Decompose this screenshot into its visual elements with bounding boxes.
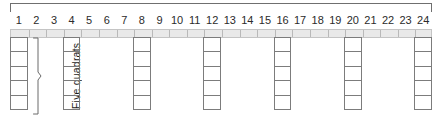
scale-tick-label: 11: [186, 13, 204, 27]
ruler-tick: [152, 30, 153, 37]
scale-tick-label: 14: [239, 13, 257, 27]
ruler-tick: [222, 30, 223, 37]
ruler-tick: [134, 30, 135, 37]
ruler-tick: [380, 30, 381, 37]
quadrat-cell: [10, 37, 28, 52]
quadrat-cell: [63, 37, 81, 52]
quadrat-cell: [274, 37, 292, 52]
scale-tick-label: 15: [256, 13, 274, 27]
scale-tick-label: 3: [45, 13, 63, 27]
quadrat-column: [203, 37, 221, 110]
ruler-tick: [169, 30, 170, 37]
quadrat-cell: [274, 51, 292, 66]
quadrat-cell: [10, 95, 28, 110]
quadrat-cell: [414, 37, 432, 52]
quadrat-cell: [344, 66, 362, 81]
scale-tick-label: 19: [327, 13, 345, 27]
scale-tick-label: 4: [63, 13, 81, 27]
ruler-tick: [240, 30, 241, 37]
ruler-tick: [257, 30, 258, 37]
quadrat-cell: [133, 80, 151, 95]
quadrat-cell: [274, 66, 292, 81]
ruler-tick: [292, 30, 293, 37]
quadrat-cell: [203, 66, 221, 81]
ruler-tick: [398, 30, 399, 37]
quadrat-cell: [414, 66, 432, 81]
ruler-tick: [117, 30, 118, 37]
scale-tick-label: 6: [98, 13, 116, 27]
scale-tick-label: 13: [221, 13, 239, 27]
quadrat-cell: [414, 51, 432, 66]
scale-tick-label: 9: [151, 13, 169, 27]
scale-tick-label: 23: [397, 13, 415, 27]
ruler-tick: [275, 30, 276, 37]
scale-tick-label: 7: [116, 13, 134, 27]
quadrat-column: [344, 37, 362, 110]
transect-quadrat-diagram: 123456789101112131415161718192021222324 …: [0, 0, 442, 128]
ruler-tick: [310, 30, 311, 37]
scale-tick-label: 2: [28, 13, 46, 27]
quadrat-cell: [414, 95, 432, 110]
scale-tick-label: 8: [133, 13, 151, 27]
quadrat-cell: [203, 80, 221, 95]
scale-tick-label: 24: [414, 13, 432, 27]
scale-tick-label: 5: [80, 13, 98, 27]
scale-tick-label: 10: [168, 13, 186, 27]
scale-tick-label: 17: [291, 13, 309, 27]
quadrat-cell: [133, 51, 151, 66]
ruler-tick: [363, 30, 364, 37]
ruler-tick: [204, 30, 205, 37]
quadrat-cell: [63, 95, 81, 110]
quadrat-cell: [133, 66, 151, 81]
ruler-tick: [345, 30, 346, 37]
scale-tick-label: 20: [344, 13, 362, 27]
scale-tick-label: 22: [379, 13, 397, 27]
quadrat-cell: [133, 95, 151, 110]
scale-tick-label: 1: [10, 13, 28, 27]
quadrat-cell: [10, 80, 28, 95]
quadrat-cell: [344, 51, 362, 66]
quadrat-column: [63, 37, 81, 110]
quadrat-cell: [274, 95, 292, 110]
scale-tick-label: 21: [362, 13, 380, 27]
ruler-tick: [187, 30, 188, 37]
scale-number-row: 123456789101112131415161718192021222324: [10, 13, 432, 28]
quadrat-cell: [10, 66, 28, 81]
ruler-tick: [415, 30, 416, 37]
quadrat-cell: [133, 37, 151, 52]
quadrat-cell: [414, 80, 432, 95]
quadrat-cell: [63, 80, 81, 95]
quadrat-cell: [344, 80, 362, 95]
quadrat-cell: [63, 66, 81, 81]
ruler-tick: [328, 30, 329, 37]
scale-tick-label: 16: [274, 13, 292, 27]
quadrat-cell: [203, 51, 221, 66]
quadrat-cell: [203, 37, 221, 52]
transect-span-bracket: [10, 3, 432, 12]
scale-tick-label: 12: [203, 13, 221, 27]
quadrat-column: [414, 37, 432, 110]
ruler-tick: [29, 30, 30, 37]
quadrat-column: [274, 37, 292, 110]
quadrat-column: [133, 37, 151, 110]
quadrat-cell: [10, 51, 28, 66]
quadrat-column: [10, 37, 28, 110]
quadrat-cell: [203, 95, 221, 110]
scale-tick-label: 18: [309, 13, 327, 27]
quadrat-cell: [274, 80, 292, 95]
quadrat-cell: [344, 95, 362, 110]
quadrat-cell: [63, 51, 81, 66]
quadrat-cell: [344, 37, 362, 52]
